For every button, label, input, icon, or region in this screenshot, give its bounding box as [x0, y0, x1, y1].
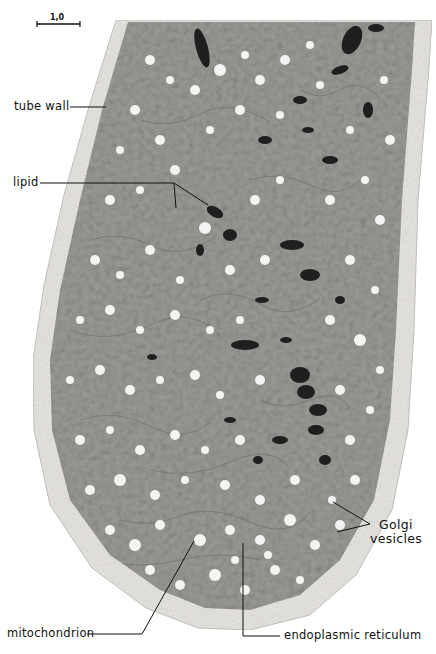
label-vesicles: vesicles — [370, 532, 422, 545]
label-lipid: lipid — [13, 176, 39, 189]
label-golgi: Golgi — [379, 518, 413, 531]
label-endoplasmic-reticulum: endoplasmic reticulum — [284, 629, 421, 642]
label-mitochondrion: mitochondrion — [7, 627, 94, 640]
cytoplasm-region — [50, 22, 415, 610]
scale-bar-label: 1,0 — [50, 13, 64, 22]
label-tube-wall: tube wall — [14, 100, 69, 113]
